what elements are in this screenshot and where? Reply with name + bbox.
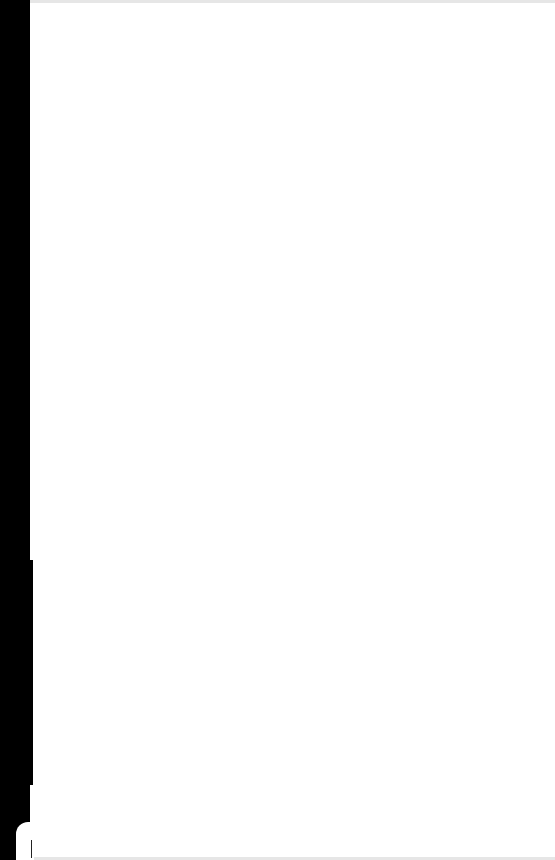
blank-page (30, 3, 555, 857)
corner-mark (31, 840, 32, 858)
scan-top-border (30, 0, 555, 3)
scan-edge-shadow-lower (0, 560, 33, 785)
